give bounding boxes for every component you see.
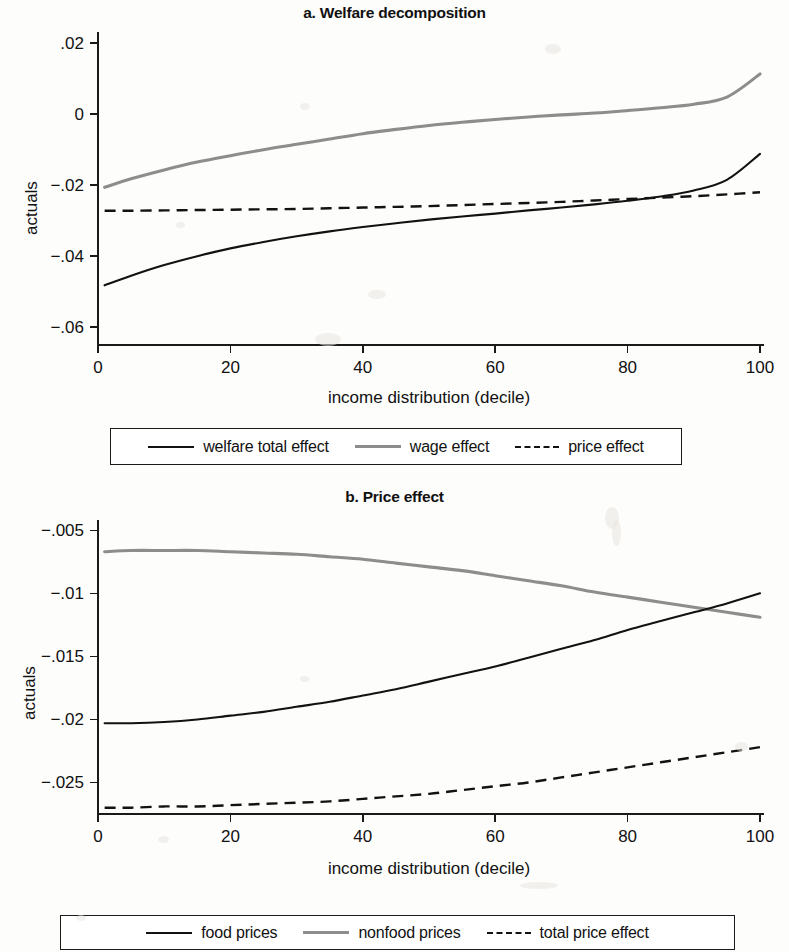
legend-label: total price effect <box>540 924 649 942</box>
series-line-wage-effect <box>105 74 760 187</box>
y-tick-label: −.025 <box>41 773 84 792</box>
figure-page: a. Welfare decomposition actuals .020−.0… <box>0 0 789 952</box>
panel-a-plot: .020−.02−.04−.06020406080100income distr… <box>0 0 789 478</box>
panel-b-plot: −.005−.01−.015−.02−.025020406080100incom… <box>0 478 789 952</box>
legend-item-welfare-total-effect: welfare total effect <box>148 438 329 456</box>
series-line-price-effect <box>105 192 760 210</box>
line-swatch-solid-icon <box>148 446 194 448</box>
line-swatch-dashed-icon <box>515 446 559 448</box>
legend-item-price-effect: price effect <box>515 438 644 456</box>
y-tick-label: −.02 <box>50 710 84 729</box>
line-swatch-gray-icon <box>355 445 401 448</box>
y-tick-label: −.005 <box>41 521 84 540</box>
legend-label: price effect <box>568 438 644 456</box>
series-line-welfare-total-effect <box>105 154 760 285</box>
x-axis-title: income distribution (decile) <box>328 388 530 407</box>
x-tick-label: 20 <box>221 827 240 846</box>
legend-item-nonfood-prices: nonfood prices <box>303 924 460 942</box>
y-tick-label: −.015 <box>41 647 84 666</box>
x-tick-label: 100 <box>746 358 774 377</box>
panel-b-y-axis-label: actuals <box>20 666 40 720</box>
x-tick-label: 40 <box>353 827 372 846</box>
legend-item-total-price-effect: total price effect <box>487 924 649 942</box>
y-tick-label: 0 <box>75 105 84 124</box>
x-tick-label: 20 <box>221 358 240 377</box>
x-tick-label: 60 <box>486 827 505 846</box>
x-tick-label: 80 <box>618 358 637 377</box>
x-tick-label: 100 <box>746 827 774 846</box>
x-tick-label: 80 <box>618 827 637 846</box>
series-line-total-price-effect <box>105 747 760 808</box>
chart-panel-welfare-decomposition: a. Welfare decomposition actuals .020−.0… <box>0 0 789 478</box>
line-swatch-solid-icon <box>146 932 192 934</box>
legend-item-wage-effect: wage effect <box>355 438 489 456</box>
x-tick-label: 0 <box>93 358 102 377</box>
x-tick-label: 0 <box>93 827 102 846</box>
chart-panel-price-effect: b. Price effect −.005−.01−.015−.02−.0250… <box>0 478 789 952</box>
legend-label: wage effect <box>410 438 489 456</box>
y-tick-label: −.02 <box>50 176 84 195</box>
legend-label: welfare total effect <box>203 438 329 456</box>
legend-label: nonfood prices <box>358 924 460 942</box>
panel-b-legend: food prices nonfood prices total price e… <box>60 915 735 950</box>
series-line-nonfood-prices <box>105 550 760 617</box>
legend-item-food-prices: food prices <box>146 924 277 942</box>
legend-label: food prices <box>201 924 277 942</box>
y-tick-label: −.04 <box>50 247 84 266</box>
y-tick-label: .02 <box>60 34 84 53</box>
line-swatch-gray-icon <box>303 931 349 934</box>
panel-a-legend: welfare total effect wage effect price e… <box>110 428 682 465</box>
y-tick-label: −.06 <box>50 318 84 337</box>
series-line-food-prices <box>105 593 760 723</box>
y-tick-label: −.01 <box>50 584 84 603</box>
x-tick-label: 40 <box>353 358 372 377</box>
x-axis-title: income distribution (decile) <box>328 859 530 878</box>
x-tick-label: 60 <box>486 358 505 377</box>
line-swatch-dashed-icon <box>487 932 531 934</box>
